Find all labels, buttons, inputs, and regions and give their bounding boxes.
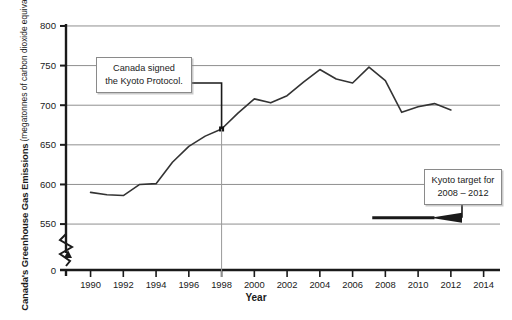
x-tick-label: 2010 [408, 279, 429, 290]
x-tick-label: 2004 [309, 279, 330, 290]
x-tick-label: 1990 [80, 279, 101, 290]
annotation-kyoto-signed[interactable]: Canada signed the Kyoto Protocol. [96, 57, 192, 93]
x-tick-label: 2012 [440, 279, 461, 290]
x-tick-label: 2002 [277, 279, 298, 290]
x-tick-label: 2008 [375, 279, 396, 290]
y-tick-label: 700 [40, 100, 56, 111]
y-tick-label: 750 [40, 60, 56, 71]
x-tick-label: 1998 [211, 279, 232, 290]
annotation-kyoto-target[interactable]: Kyoto target for 2008 – 2012 [424, 169, 502, 205]
x-tick-label: 2000 [244, 279, 265, 290]
y-tick-label-zero: 0 [51, 265, 56, 276]
y-tick-label: 600 [40, 179, 56, 190]
y-tick-label: 800 [40, 20, 56, 31]
kyoto-target-arrowhead [430, 213, 462, 223]
kyoto-target-line [372, 205, 462, 223]
x-tick-label: 1996 [178, 279, 199, 290]
x-tick-label: 2014 [473, 279, 494, 290]
annotation-kyoto-target-line1: Kyoto target for [432, 174, 495, 187]
x-tick-label: 2006 [342, 279, 363, 290]
kyoto-signed-leader [192, 83, 224, 277]
chart-plot-area: 5506006507007508000 19901992199419961998… [0, 0, 512, 320]
y-tick-label: 650 [40, 139, 56, 150]
x-axis-ticks: 1990199219941996199820002002200420062008… [80, 270, 494, 290]
chart-figure: Canada's Greenhouse Gas Emissions (megat… [0, 0, 512, 320]
x-tick-label: 1994 [146, 279, 167, 290]
annotation-kyoto-target-line2: 2008 – 2012 [437, 187, 488, 200]
annotation-kyoto-signed-line1: Canada signed [113, 62, 175, 75]
x-tick-label: 1992 [113, 279, 134, 290]
y-tick-label: 550 [40, 218, 56, 229]
annotation-kyoto-signed-line2: the Kyoto Protocol. [105, 75, 183, 88]
